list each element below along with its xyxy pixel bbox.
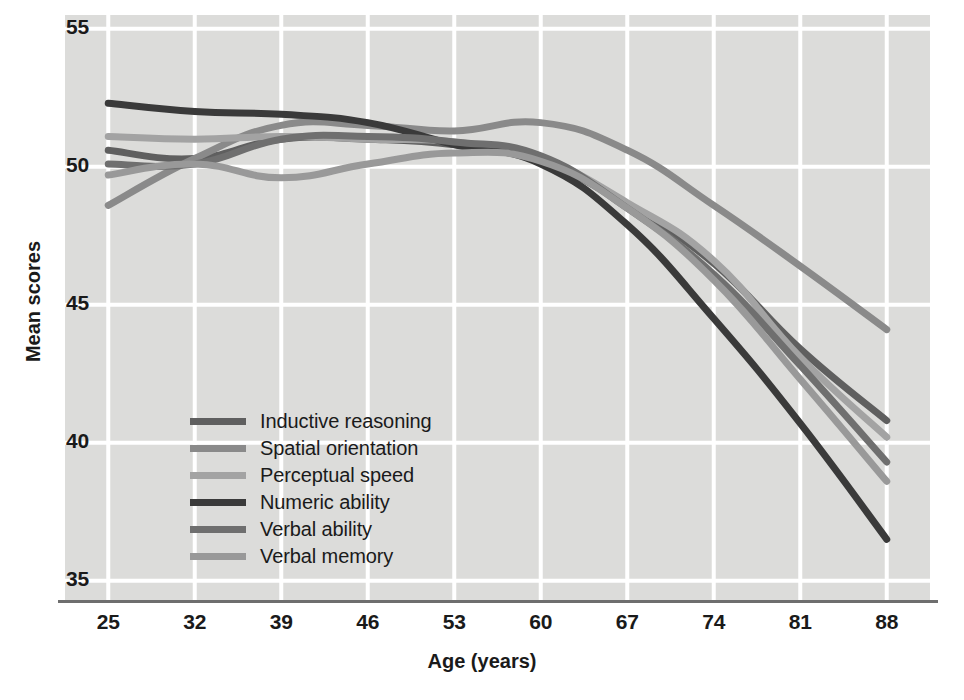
legend-swatch-icon — [190, 418, 246, 425]
y-tick-label: 35 — [66, 567, 112, 591]
legend-label: Numeric ability — [260, 491, 390, 514]
x-tick-label: 74 — [684, 610, 744, 634]
x-tick-label: 25 — [78, 610, 138, 634]
legend-label: Spatial orientation — [260, 437, 418, 460]
x-tick-label: 46 — [338, 610, 398, 634]
legend-label: Verbal ability — [260, 518, 372, 541]
legend-label: Inductive reasoning — [260, 410, 432, 433]
legend-swatch-icon — [190, 499, 246, 506]
x-axis-title: Age (years) — [0, 650, 964, 673]
x-tick-label: 81 — [770, 610, 830, 634]
legend: Inductive reasoningSpatial orientationPe… — [190, 408, 520, 570]
legend-swatch-icon — [190, 472, 246, 479]
legend-item[interactable]: Verbal ability — [190, 516, 520, 543]
legend-label: Perceptual speed — [260, 464, 414, 487]
legend-swatch-icon — [190, 526, 246, 533]
x-tick-label: 88 — [857, 610, 917, 634]
y-tick-label: 45 — [66, 291, 112, 315]
chart-figure: MEMORY AND INTELLIGENCE We have seen tha… — [0, 0, 964, 700]
series-line-0 — [108, 137, 887, 421]
legend-item[interactable]: Inductive reasoning — [190, 408, 520, 435]
y-tick-label: 50 — [66, 153, 112, 177]
legend-swatch-icon — [190, 553, 246, 560]
legend-label: Verbal memory — [260, 545, 393, 568]
x-tick-label: 67 — [597, 610, 657, 634]
y-axis-title: Mean scores — [22, 202, 45, 402]
x-tick-label: 53 — [424, 610, 484, 634]
x-tick-label: 39 — [251, 610, 311, 634]
x-tick-label: 32 — [165, 610, 225, 634]
y-tick-label: 40 — [66, 429, 112, 453]
y-tick-label: 55 — [66, 15, 112, 39]
legend-item[interactable]: Spatial orientation — [190, 435, 520, 462]
x-tick-label: 60 — [511, 610, 571, 634]
series-line-2 — [108, 136, 887, 437]
legend-item[interactable]: Numeric ability — [190, 489, 520, 516]
legend-swatch-icon — [190, 445, 246, 452]
x-axis-line — [58, 600, 938, 603]
legend-item[interactable]: Perceptual speed — [190, 462, 520, 489]
legend-item[interactable]: Verbal memory — [190, 543, 520, 570]
